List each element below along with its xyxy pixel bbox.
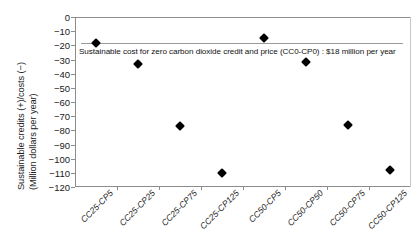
y-tick-label: −50 bbox=[54, 82, 70, 93]
plot-area: 0−10−20−30−40−50−60−70−80−90−100−110−120… bbox=[75, 17, 411, 187]
y-tick-label: −80 bbox=[54, 125, 70, 136]
y-tick-mark bbox=[71, 17, 75, 18]
y-axis-title-line-1: Sustainable credits (+)/costs (−) bbox=[15, 62, 27, 190]
y-tick-mark bbox=[71, 74, 75, 75]
y-tick-mark bbox=[71, 173, 75, 174]
y-tick-label: −120 bbox=[49, 182, 70, 193]
y-tick-label: −60 bbox=[54, 97, 70, 108]
y-tick-label: −30 bbox=[54, 54, 70, 65]
y-tick-mark bbox=[71, 60, 75, 61]
y-tick-label: −20 bbox=[54, 40, 70, 51]
reference-line bbox=[81, 43, 403, 44]
data-point-marker bbox=[133, 59, 143, 69]
x-tick-label: CC50-CP50 bbox=[285, 188, 325, 228]
y-tick-label: 0 bbox=[65, 12, 70, 23]
y-tick-label: −10 bbox=[54, 26, 70, 37]
y-tick-label: −110 bbox=[49, 167, 70, 178]
y-tick-mark bbox=[71, 31, 75, 32]
x-tick-label: CC50-CP5 bbox=[247, 188, 283, 224]
data-point-marker bbox=[175, 121, 185, 131]
y-tick-label: −40 bbox=[54, 68, 70, 79]
axis-left-spine bbox=[75, 17, 76, 187]
data-point-marker bbox=[301, 57, 311, 67]
x-tick-label: CC25-CP125 bbox=[198, 188, 241, 231]
data-point-marker bbox=[343, 120, 353, 130]
x-tick-label: CC25-CP75 bbox=[159, 188, 199, 228]
y-axis-title: Sustainable credits (+)/costs (−) (Milli… bbox=[0, 0, 40, 200]
y-tick-label: −90 bbox=[54, 139, 70, 150]
y-tick-label: −70 bbox=[54, 111, 70, 122]
x-tick-label: CC50-CP125 bbox=[366, 188, 409, 231]
y-tick-mark bbox=[71, 159, 75, 160]
x-axis-tick-labels: CC25-CP5CC25-CP25CC25-CP75CC25-CP125CC50… bbox=[75, 188, 411, 248]
axis-top-spine bbox=[75, 17, 411, 18]
y-tick-mark bbox=[71, 130, 75, 131]
data-point-marker bbox=[217, 168, 227, 178]
y-tick-mark bbox=[71, 45, 75, 46]
x-tick-label: CC50-CP75 bbox=[327, 188, 367, 228]
data-point-marker bbox=[385, 165, 395, 175]
y-tick-label: −100 bbox=[49, 153, 70, 164]
x-tick-label: CC25-CP25 bbox=[117, 188, 157, 228]
y-tick-mark bbox=[71, 102, 75, 103]
y-axis-title-line-2: (Million dollars per year) bbox=[27, 93, 39, 190]
chart-figure: Sustainable credits (+)/costs (−) (Milli… bbox=[0, 0, 419, 248]
reference-line-annotation: Sustainable cost for zero carbon dioxide… bbox=[79, 47, 396, 56]
y-tick-mark bbox=[71, 145, 75, 146]
y-tick-mark bbox=[71, 88, 75, 89]
axis-right-spine bbox=[410, 17, 411, 187]
x-tick-label: CC25-CP5 bbox=[79, 188, 115, 224]
y-tick-mark bbox=[71, 116, 75, 117]
